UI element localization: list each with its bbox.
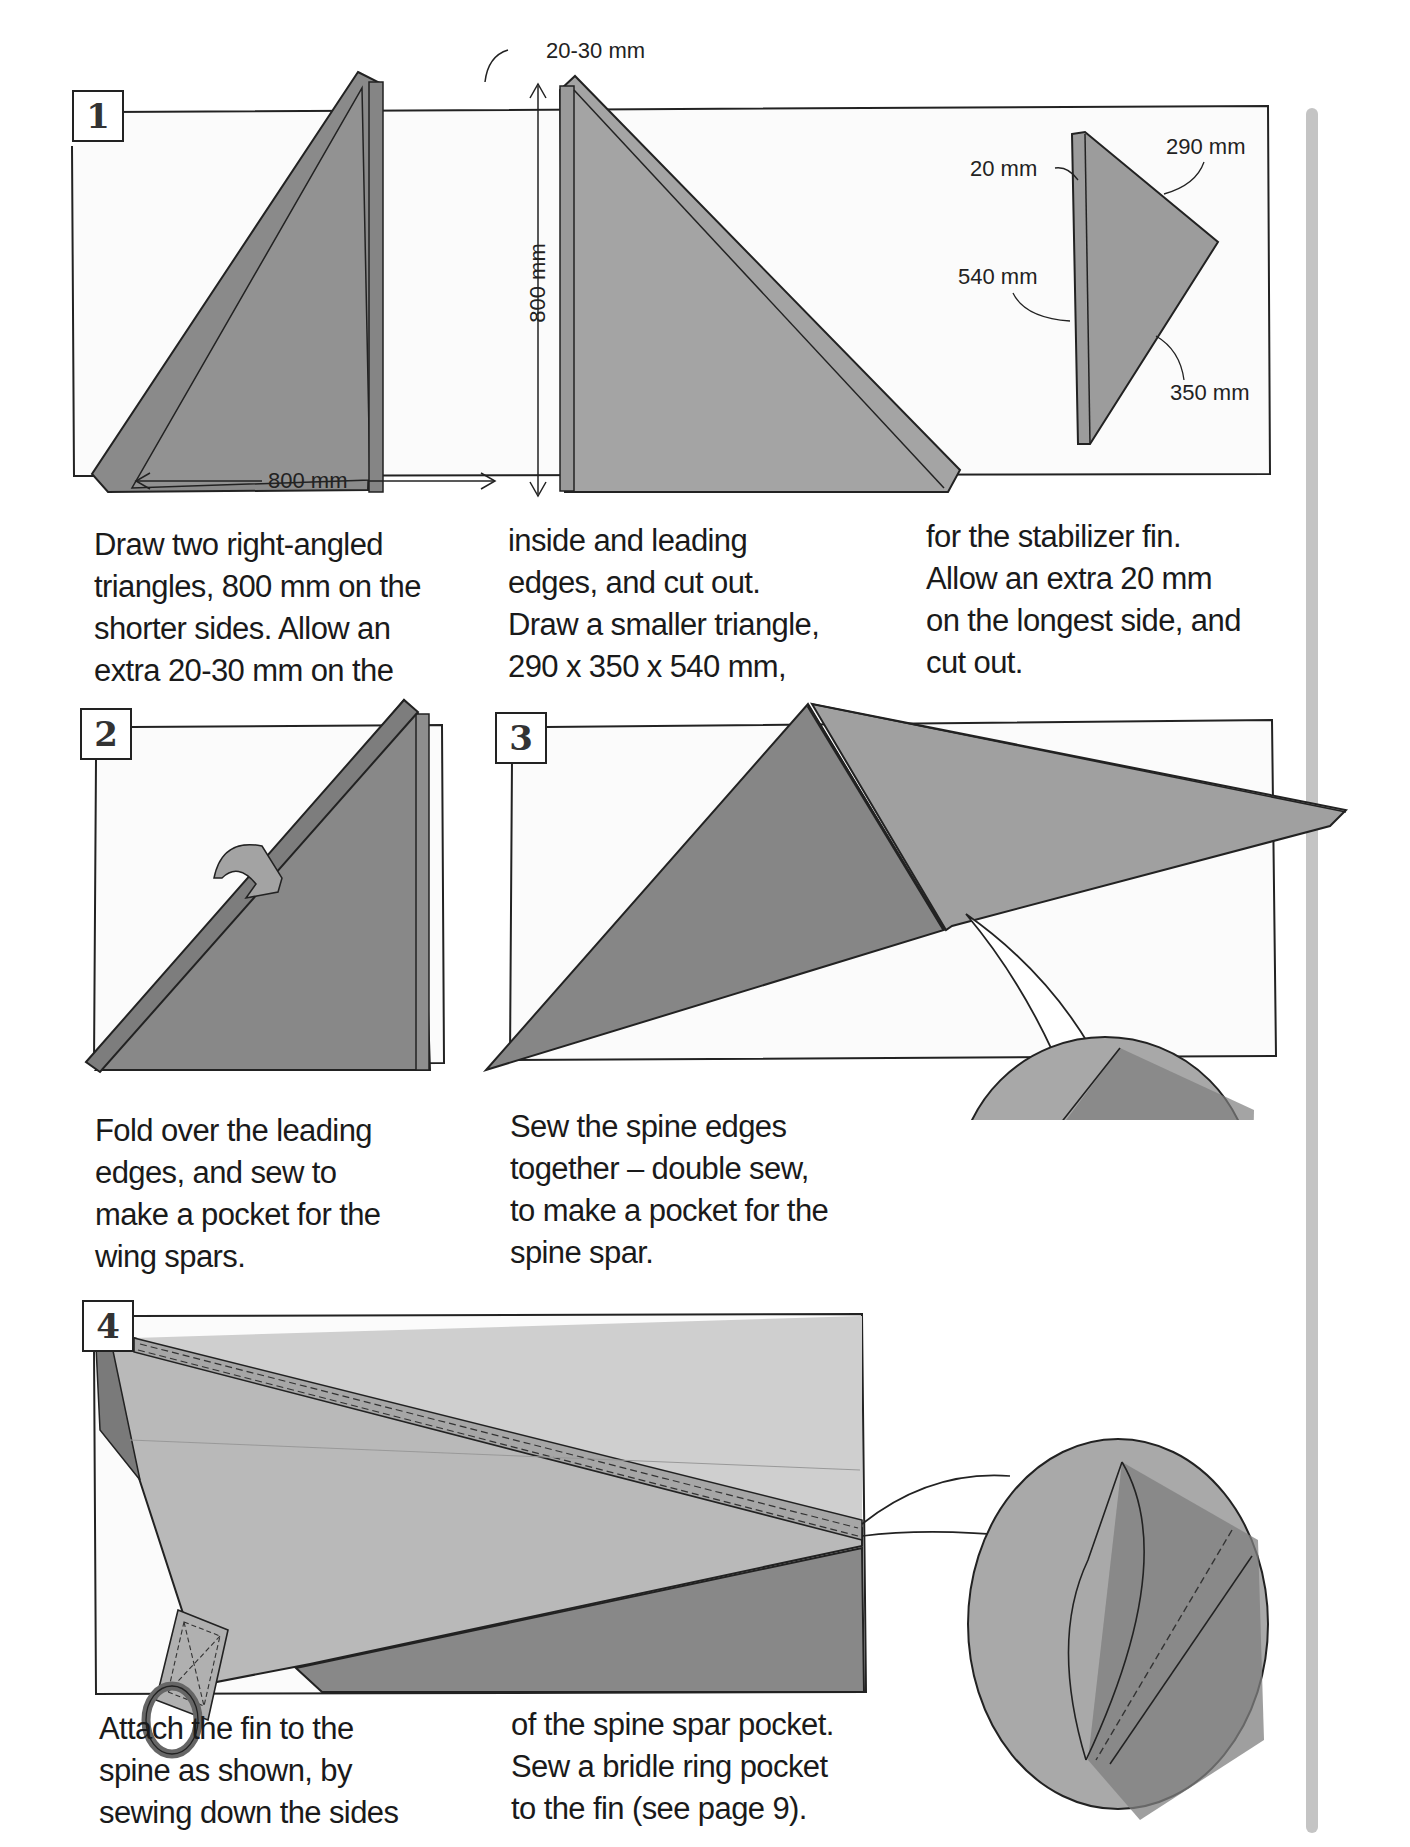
step-4-caption-col-1: Attach the fin to the spine as shown, by… bbox=[99, 1708, 398, 1834]
step-1-number: 1 bbox=[72, 90, 124, 142]
step-3-caption: Sew the spine edges together – double se… bbox=[510, 1106, 828, 1274]
step-2-number: 2 bbox=[80, 708, 132, 760]
step-4-sail bbox=[96, 1338, 862, 1684]
step-4-caption-col-2: of the spine spar pocket. Sew a bridle r… bbox=[511, 1704, 834, 1830]
step-4-detail-magnifier bbox=[968, 1439, 1268, 1809]
step-2-caption: Fold over the leading edges, and sew to … bbox=[95, 1110, 381, 1278]
step-4-fin bbox=[296, 1548, 864, 1692]
bridle-tab bbox=[156, 1610, 228, 1720]
step-4-number: 4 bbox=[82, 1300, 134, 1352]
steps-2-3-illustration bbox=[0, 0, 1410, 1120]
step-3-number: 3 bbox=[495, 712, 547, 764]
